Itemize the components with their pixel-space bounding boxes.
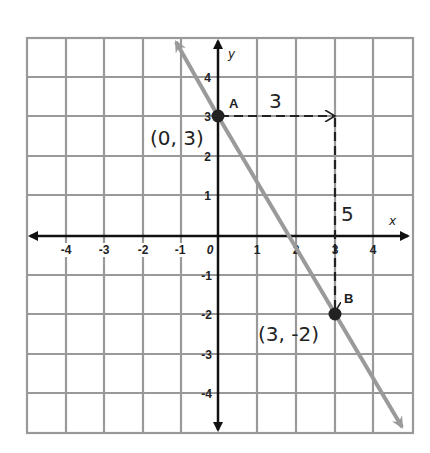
point-b xyxy=(329,308,342,321)
x-tick: 1 xyxy=(254,243,261,257)
y-tick: -1 xyxy=(201,269,212,283)
x-tick: -4 xyxy=(61,243,72,257)
y-tick: 1 xyxy=(204,189,211,203)
x-tick: -3 xyxy=(99,243,110,257)
x-axis-label: x xyxy=(388,214,397,228)
y-tick: -4 xyxy=(201,387,212,401)
y-axis-label: y xyxy=(227,47,236,61)
run-label: 3 xyxy=(269,89,282,113)
y-tick: -3 xyxy=(201,348,212,362)
graphed-line xyxy=(176,42,218,116)
coord-b-label: (3, -2) xyxy=(258,322,319,346)
rise-label: 5 xyxy=(341,202,354,226)
point-a-label: A xyxy=(229,96,239,111)
graphed-line-lower xyxy=(218,116,402,427)
y-tick: -2 xyxy=(201,308,212,322)
coord-a-label: (0, 3) xyxy=(150,126,204,150)
y-tick: 2 xyxy=(204,150,211,164)
coordinate-plane: -4 -3 -2 -1 0 1 2 3 4 4 3 2 1 -1 -2 -3 -… xyxy=(0,0,430,453)
x-tick: -2 xyxy=(138,243,149,257)
x-tick: -1 xyxy=(175,243,186,257)
y-tick: 4 xyxy=(204,71,211,85)
axes xyxy=(30,41,408,430)
origin-label: 0 xyxy=(207,243,214,257)
point-a xyxy=(212,110,225,123)
y-tick: 3 xyxy=(204,110,211,124)
point-b-label: B xyxy=(344,291,353,306)
x-tick-labels: -4 -3 -2 -1 0 1 2 3 4 xyxy=(50,243,377,257)
x-tick: 4 xyxy=(370,243,377,257)
